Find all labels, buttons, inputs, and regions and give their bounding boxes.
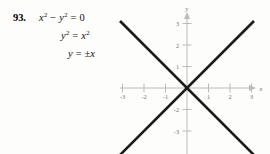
- x-axis-arrow-icon: [249, 85, 256, 91]
- problem-number: 93.: [13, 12, 26, 23]
- x-tick-label-3: 3: [250, 93, 253, 100]
- x-tick-label--1: -1: [163, 93, 168, 100]
- eq1-result: 0: [79, 12, 84, 23]
- equation-line-1: x2−y2=0: [39, 12, 85, 23]
- x-tick-label--2: -2: [141, 93, 146, 100]
- axes-group: [120, 12, 256, 154]
- y-tick-label--2: -2: [174, 106, 179, 113]
- equation-line-2: y2=x2: [61, 30, 89, 41]
- y-tick-label--3: -3: [174, 128, 179, 135]
- x-tick-label-2: 2: [228, 93, 231, 100]
- eq2-exponent-2: 2: [86, 29, 89, 36]
- eq1-minus-operator: −: [47, 12, 59, 23]
- eq3-equals-sign: =: [73, 48, 85, 59]
- eq3-result: ±x: [85, 48, 95, 59]
- x-axis-label: x: [259, 85, 263, 92]
- coordinate-graph: -3 -2 -1 1 2 3 3 2 1 -2 -3 x y: [115, 8, 270, 154]
- y-tick-label-2: 2: [176, 42, 179, 49]
- eq2-equals-sign: =: [69, 30, 81, 41]
- y-axis-arrow-icon: [184, 12, 190, 19]
- problem-statement: 93. x2−y2=0 y2=x2 y=±x: [0, 0, 125, 154]
- x-tick-label-1: 1: [207, 93, 210, 100]
- eq2-variable-y: y: [61, 30, 66, 41]
- eq1-variable-x: x: [39, 12, 44, 23]
- eq1-equals-sign: =: [67, 12, 79, 23]
- y-tick-label-1: 1: [176, 63, 179, 70]
- y-tick-label-3: 3: [176, 20, 179, 27]
- equation-line-3: y=±x: [68, 48, 95, 59]
- x-tick-label--3: -3: [120, 93, 125, 100]
- y-axis-label: y: [185, 8, 189, 12]
- figure-container: 93. x2−y2=0 y2=x2 y=±x: [0, 0, 270, 154]
- x-axis-tick-labels: -3 -2 -1 1 2 3: [120, 93, 253, 100]
- graph-svg: -3 -2 -1 1 2 3 3 2 1 -2 -3 x y: [115, 8, 270, 154]
- eq3-variable-y: y: [68, 48, 73, 59]
